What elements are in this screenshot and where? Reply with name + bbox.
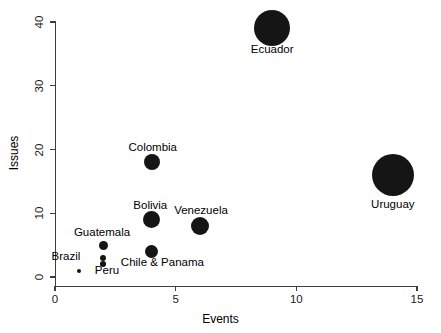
point-label-uruguay: Uruguay [371,199,414,211]
bubble-bolivia[interactable] [143,211,160,228]
y-axis-line [55,21,56,286]
y-axis-tick-label: 20 [34,142,46,158]
bubble-uruguay[interactable] [372,154,414,196]
point-label-venezuela: Venezuela [174,205,228,217]
x-axis-tick-label: 15 [411,294,424,306]
x-axis-line [55,286,418,287]
point-label-colombia: Colombia [128,142,177,154]
bubble-peru[interactable] [77,269,81,273]
x-axis-tick-label: 0 [52,294,58,306]
y-axis-tick [50,213,55,214]
point-label-brazil: Brazil [52,251,81,263]
x-axis-tick [54,286,55,291]
x-axis-title: Events [0,312,441,326]
y-axis-tick [50,149,55,150]
y-axis-tick [50,276,55,277]
y-axis-tick-label: 30 [34,78,46,94]
point-label-chile-panama: Chile & Panama [121,257,204,269]
x-axis-tick [416,286,417,291]
bubble-guatemala[interactable] [99,241,108,250]
point-label-ecuador: Ecuador [251,44,294,56]
bubble-venezuela[interactable] [191,217,209,235]
x-axis-tick-label: 5 [172,294,178,306]
point-label-guatemala: Guatemala [74,227,130,239]
y-axis-tick [50,21,55,22]
x-axis-tick-label: 10 [290,294,303,306]
bubble-ecuador[interactable] [254,10,290,46]
point-label-bolivia: Bolivia [133,200,167,212]
bubble-brazil[interactable] [100,255,106,261]
bubble-colombia[interactable] [144,154,160,170]
y-axis-tick [50,85,55,86]
y-axis-tick-label: 10 [34,205,46,221]
x-axis-tick [175,286,176,291]
x-axis-tick [296,286,297,291]
point-label-peru: Peru [95,265,119,277]
bubble-chart: 051015010203040EcuadorUruguayColombiaBol… [0,0,441,333]
y-axis-tick-label: 40 [34,14,46,30]
y-axis-tick-label: 0 [34,269,46,285]
y-axis-title: Issues [7,123,21,183]
